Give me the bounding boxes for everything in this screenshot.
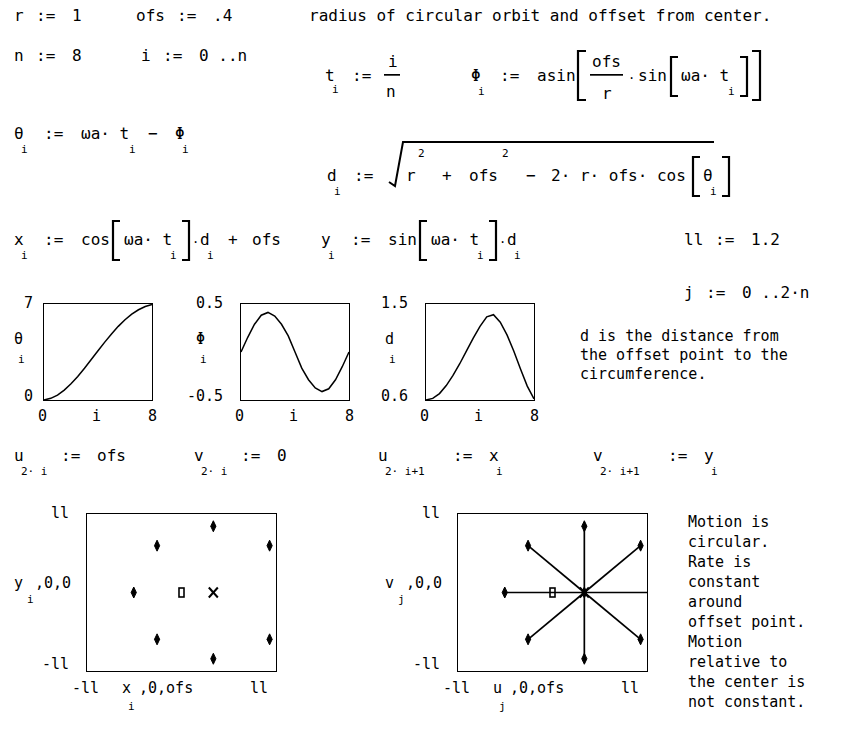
y-mul-dot: · — [499, 234, 506, 250]
d-plot-ymin[interactable]: 0.6 — [381, 389, 408, 404]
theta-plot-ylabel-sub: i — [18, 354, 25, 365]
data-point-diamond — [267, 540, 272, 551]
d-plot-ylabel[interactable]: d — [385, 332, 394, 347]
d-plot-ymax[interactable]: 1.5 — [381, 296, 408, 311]
uv-plot-xmax[interactable]: ll — [621, 681, 639, 696]
xy-plot-ymax[interactable]: ll — [51, 506, 69, 521]
y-factor: d — [507, 232, 517, 248]
theta-plot-ymax[interactable]: 7 — [24, 296, 33, 311]
var-n-value[interactable]: 8 — [72, 48, 82, 64]
phi-plot-ylabel[interactable]: Φ — [196, 332, 205, 347]
var-ofs-name: ofs — [136, 8, 165, 24]
fraction-bar — [384, 74, 402, 77]
xy-plot-ymin[interactable]: -ll — [42, 657, 69, 672]
uv-plot-xlabel-extra[interactable]: ,0,ofs — [510, 681, 564, 696]
bracket-close-y — [487, 220, 499, 262]
uv-plot-xmin[interactable]: -ll — [443, 681, 470, 696]
xy-plot-xlabel[interactable]: x — [122, 681, 131, 696]
v-odd-rhs-sub: i — [711, 466, 718, 477]
phi-plot-xmin[interactable]: 0 — [235, 409, 244, 424]
uv-plot-xlabel[interactable]: u — [493, 681, 502, 696]
theta-plot-xmax[interactable]: 8 — [148, 409, 157, 424]
uv-plot-ylabel-extra[interactable]: ,0,0 — [406, 576, 442, 591]
theta-plot-ylabel[interactable]: θ — [14, 332, 23, 347]
xy-plot-xlabel-sub: i — [128, 701, 135, 712]
phi-plot-ymax[interactable]: 0.5 — [196, 296, 223, 311]
uv-plot-ylabel[interactable]: v — [385, 576, 394, 591]
bracket-open-inner — [668, 56, 680, 98]
spoke-line — [584, 546, 640, 593]
xy-plot-xlabel-extra[interactable]: ,0,ofs — [139, 681, 193, 696]
theta-plot-curve — [43, 303, 153, 401]
theta-plot-ymin[interactable]: 0 — [24, 389, 33, 404]
uv-plot-ymin[interactable]: -ll — [413, 657, 440, 672]
t-lhs-sub: i — [332, 84, 339, 95]
d-lhs-sub: i — [334, 186, 341, 197]
theta-minus: − — [148, 126, 158, 142]
xy-plot-ylabel[interactable]: y — [14, 576, 23, 591]
t-op: := — [352, 68, 371, 84]
x-arg-sub: i — [170, 250, 177, 261]
motion-note-line-4: constant — [688, 572, 760, 592]
spoke-line — [584, 593, 640, 640]
phi-inner-arg: ωa· t — [681, 68, 729, 84]
uv-plot-ymax[interactable]: ll — [422, 506, 440, 521]
d-note-line-2: the offset point to the — [580, 346, 788, 365]
var-ofs-value[interactable]: .4 — [213, 8, 232, 24]
x-fn: cos — [81, 232, 110, 248]
bracket-close-outer — [750, 50, 764, 102]
motion-note-line-7: Motion — [688, 632, 742, 652]
phi-op: := — [500, 68, 519, 84]
x-offset: ofs — [252, 232, 281, 248]
bracket-open-y — [417, 220, 429, 262]
d-sup2: 2 — [502, 148, 509, 159]
theta-op: := — [44, 126, 63, 142]
var-n-name: n — [14, 48, 24, 64]
theta-rhs-sub: i — [129, 144, 136, 155]
var-r-op: := — [36, 8, 55, 24]
phi-plot-curve — [240, 303, 350, 401]
x-mul-dot: · — [192, 234, 199, 250]
phi-plot-ymin[interactable]: -0.5 — [187, 389, 223, 404]
v-odd-rhs: y — [704, 448, 714, 464]
data-point-diamond — [525, 540, 530, 551]
phi-plot-xmax[interactable]: 8 — [345, 409, 354, 424]
d-plot-xlabel[interactable]: i — [474, 409, 483, 424]
data-point-diamond — [211, 653, 216, 664]
y-arg-sub: i — [477, 250, 484, 261]
d-plot-xmax[interactable]: 8 — [530, 409, 539, 424]
var-n-op: := — [36, 48, 55, 64]
var-r-value[interactable]: 1 — [72, 8, 82, 24]
d-lhs: d — [327, 168, 337, 184]
y-factor-sub: i — [514, 250, 521, 261]
u-odd-sub: 2· i+1 — [385, 466, 425, 477]
uv-plot-xlabel-sub: j — [499, 701, 506, 712]
range-i-name: i — [141, 48, 151, 64]
d-plus: + — [442, 168, 452, 184]
x-factor-sub: i — [207, 250, 214, 261]
xy-plot-ylabel-extra[interactable]: ,0,0 — [35, 576, 71, 591]
xy-plot-xmax[interactable]: ll — [250, 681, 268, 696]
v-even-rhs: 0 — [277, 448, 287, 464]
d-arg: θ — [703, 168, 713, 184]
motion-note-line-10: not constant. — [688, 692, 805, 712]
phi-fn: asin — [537, 68, 576, 84]
bracket-open-x — [110, 220, 122, 262]
motion-note-line-5: around — [688, 592, 742, 612]
range-i-value[interactable]: 0 ..n — [199, 48, 247, 64]
t-numerator: i — [388, 54, 398, 70]
var-ll-value[interactable]: 1.2 — [751, 232, 780, 248]
y-lhs: y — [321, 232, 331, 248]
xy-plot-xmin[interactable]: -ll — [72, 681, 99, 696]
y-arg: ωa· t — [431, 232, 479, 248]
phi-plot-xlabel[interactable]: i — [289, 409, 298, 424]
theta-plot-xlabel[interactable]: i — [92, 409, 101, 424]
d-plot-xmin[interactable]: 0 — [420, 409, 429, 424]
motion-note-line-6: offset point. — [688, 612, 805, 632]
v-odd-sub: 2· i+1 — [600, 466, 640, 477]
data-point-diamond — [131, 587, 136, 598]
theta-plot-xmin[interactable]: 0 — [38, 409, 47, 424]
d-plot-curve — [425, 303, 535, 401]
range-j-value[interactable]: 0 ..2·n — [742, 285, 809, 301]
theta-term2-sub: i — [182, 144, 189, 155]
